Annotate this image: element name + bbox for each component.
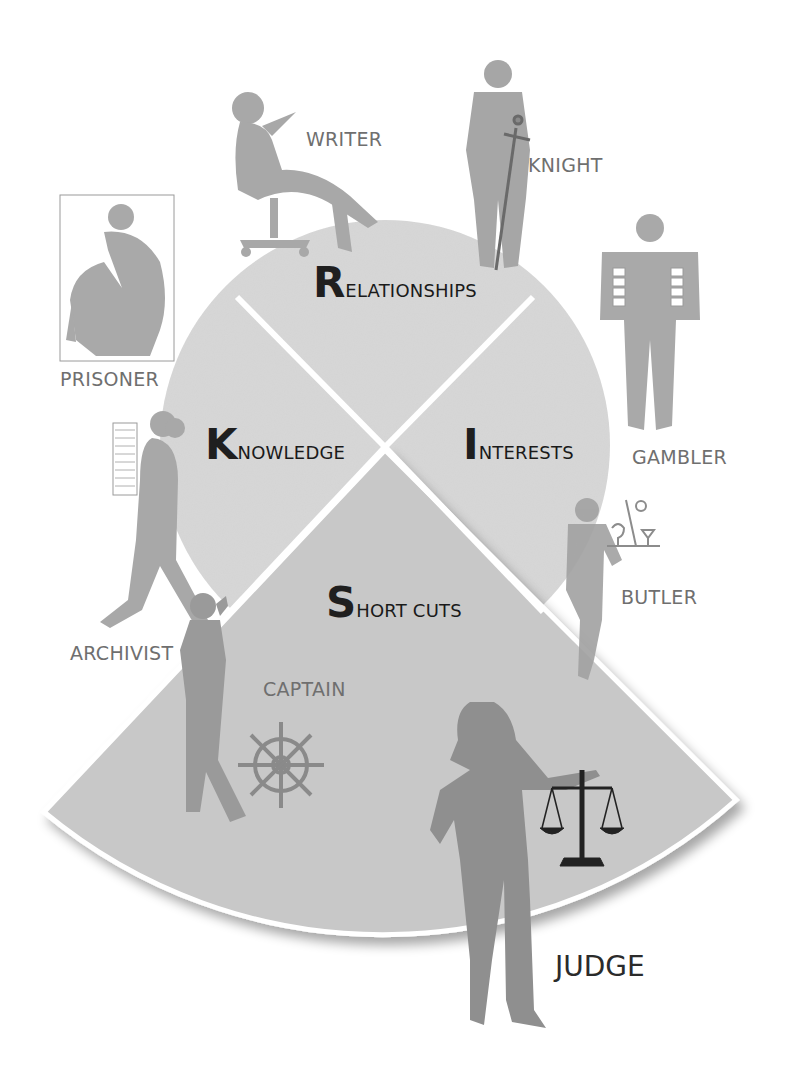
role-label-writer: WRITER bbox=[306, 128, 382, 150]
section-title-knowledge: KNOWLEDGE bbox=[205, 424, 345, 466]
section-rest: ELATIONSHIPS bbox=[345, 280, 477, 301]
section-initial: S bbox=[326, 578, 356, 627]
section-rest: NOWLEDGE bbox=[238, 442, 346, 463]
section-initial: K bbox=[205, 420, 238, 469]
role-label-butler: BUTLER bbox=[621, 586, 697, 608]
role-label-judge: JUDGE bbox=[555, 950, 645, 983]
knight-silhouette bbox=[466, 60, 530, 268]
diagram-graphic bbox=[0, 0, 786, 1089]
role-label-archivist: ARCHIVIST bbox=[70, 642, 173, 664]
role-label-gambler: GAMBLER bbox=[632, 446, 727, 468]
section-rest: NTERESTS bbox=[479, 442, 574, 463]
diagram-canvas: RELATIONSHIPS KNOWLEDGE INTERESTS SHORT … bbox=[0, 0, 786, 1089]
documents-icon bbox=[113, 423, 137, 495]
role-label-prisoner: PRISONER bbox=[60, 368, 159, 390]
gambler-silhouette bbox=[600, 214, 700, 430]
section-title-relationships: RELATIONSHIPS bbox=[313, 262, 477, 304]
section-initial: R bbox=[313, 258, 345, 307]
section-title-short-cuts: SHORT CUTS bbox=[326, 582, 462, 624]
drinks-tray-icon bbox=[607, 500, 660, 546]
section-title-interests: INTERESTS bbox=[463, 424, 574, 466]
section-initial: I bbox=[463, 420, 479, 469]
section-rest: HORT CUTS bbox=[356, 600, 462, 621]
role-label-captain: CAPTAIN bbox=[263, 678, 346, 700]
role-label-knight: KNIGHT bbox=[528, 154, 603, 176]
